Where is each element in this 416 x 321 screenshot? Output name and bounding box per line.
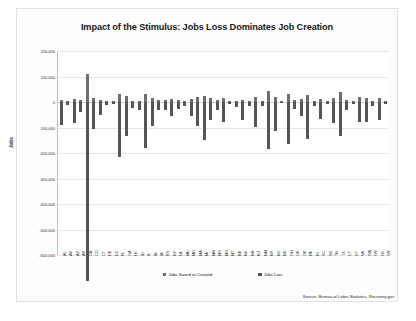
x-tick-label: AK bbox=[68, 251, 73, 256]
bar-jobs-lost bbox=[73, 102, 76, 123]
x-tick-label: MS bbox=[217, 250, 222, 256]
bar-jobs-saved bbox=[118, 94, 121, 102]
x-tick-label: CT bbox=[101, 251, 106, 256]
bar-jobs-lost bbox=[267, 102, 270, 149]
x-tick-label: WV bbox=[373, 250, 378, 256]
x-tick-label: WY bbox=[386, 250, 391, 256]
x-tick-label: HI bbox=[133, 252, 138, 256]
bar-jobs-lost bbox=[66, 102, 69, 105]
bar-jobs-lost bbox=[60, 102, 63, 125]
gridline bbox=[58, 204, 388, 205]
x-tick-label: NE bbox=[237, 251, 242, 256]
x-tick-label: MN bbox=[211, 250, 216, 256]
x-tick-label: NJ bbox=[256, 251, 261, 256]
x-tick-label: IA bbox=[159, 253, 164, 256]
bar-jobs-saved bbox=[235, 101, 238, 102]
bar-jobs-lost bbox=[339, 102, 342, 136]
gridline bbox=[58, 51, 388, 52]
bar-jobs-lost bbox=[378, 102, 381, 120]
x-tick-label: MI bbox=[204, 252, 209, 256]
bar-jobs-lost bbox=[313, 102, 316, 106]
bar-jobs-lost bbox=[235, 102, 238, 107]
x-tick-label: DE bbox=[107, 251, 112, 256]
bar-jobs-saved bbox=[79, 100, 82, 102]
x-tick-label: IL bbox=[146, 253, 151, 256]
bar-jobs-saved bbox=[306, 95, 309, 102]
bar-jobs-saved bbox=[66, 101, 69, 102]
chart-legend: Jobs Saved or CreatedJobs Lost bbox=[57, 272, 388, 277]
bar-jobs-saved bbox=[352, 101, 355, 102]
y-tick-label: -600,000 bbox=[7, 253, 55, 258]
bar-jobs-saved bbox=[358, 97, 361, 102]
bar-jobs-saved bbox=[92, 98, 95, 102]
x-tick-label: WI bbox=[380, 251, 385, 256]
bar-jobs-lost bbox=[300, 102, 303, 116]
bar-jobs-lost bbox=[164, 102, 167, 110]
gridline bbox=[58, 230, 388, 231]
bar-jobs-lost bbox=[326, 102, 329, 104]
bar-jobs-lost bbox=[203, 102, 206, 140]
legend-item[interactable]: Jobs Saved or Created bbox=[163, 272, 212, 277]
x-tick-label: MO bbox=[224, 250, 229, 256]
bar-jobs-lost bbox=[216, 102, 219, 110]
x-tick-label: OH bbox=[289, 250, 294, 256]
bar-jobs-lost bbox=[332, 102, 335, 123]
bar-jobs-saved bbox=[332, 98, 335, 102]
bar-jobs-lost bbox=[306, 102, 309, 139]
x-tick-label: UT bbox=[347, 251, 352, 256]
x-tick-label: KS bbox=[165, 251, 170, 256]
bar-jobs-saved bbox=[254, 97, 257, 102]
x-tick-label: NH bbox=[250, 251, 255, 256]
bar-jobs-saved bbox=[112, 101, 115, 102]
bar-jobs-lost bbox=[190, 102, 193, 116]
bar-jobs-lost bbox=[144, 102, 147, 148]
bar-jobs-saved bbox=[267, 91, 270, 102]
bar-jobs-lost bbox=[196, 102, 199, 126]
bar-jobs-lost bbox=[345, 102, 348, 110]
x-tick-label: TN bbox=[334, 251, 339, 256]
x-tick-label: CA bbox=[88, 251, 93, 256]
bar-jobs-lost bbox=[131, 102, 134, 108]
x-tick-label: SD bbox=[328, 251, 333, 256]
bar-jobs-saved bbox=[293, 100, 296, 102]
x-tick-label: ID bbox=[140, 252, 145, 256]
x-tick-label: LA bbox=[178, 251, 183, 256]
bar-jobs-lost bbox=[125, 102, 128, 136]
x-tick-label: AZ bbox=[75, 251, 80, 256]
bar-jobs-lost bbox=[293, 102, 296, 109]
bar-jobs-saved bbox=[60, 100, 63, 102]
x-tick-label: NC bbox=[276, 251, 281, 256]
x-tick-label: SC bbox=[321, 251, 326, 256]
bar-jobs-saved bbox=[196, 97, 199, 102]
x-tick-label: OK bbox=[295, 251, 300, 256]
x-tick-label: WA bbox=[367, 250, 372, 256]
screenshot-root: Impact of the Stimulus: Jobs Loss Domina… bbox=[0, 0, 416, 321]
gridline bbox=[58, 153, 388, 154]
bar-jobs-saved bbox=[105, 101, 108, 102]
bar-jobs-saved bbox=[319, 99, 322, 102]
x-tick-label: FL bbox=[120, 252, 125, 256]
bar-jobs-saved bbox=[274, 97, 277, 102]
x-tick-label: DC bbox=[114, 251, 119, 256]
legend-swatch-icon bbox=[163, 273, 167, 277]
bar-jobs-saved bbox=[99, 100, 102, 102]
bar-jobs-lost bbox=[254, 102, 257, 127]
bar-jobs-lost bbox=[384, 102, 387, 104]
bar-jobs-lost bbox=[157, 102, 160, 110]
source-note: Source: Bureau of Labor Statistics, Reco… bbox=[303, 294, 394, 299]
bar-jobs-lost bbox=[118, 102, 121, 157]
bar-jobs-saved bbox=[228, 101, 231, 102]
bar-jobs-saved bbox=[151, 98, 154, 102]
bar-jobs-saved bbox=[222, 98, 225, 102]
bar-jobs-saved bbox=[177, 100, 180, 102]
bar-jobs-lost bbox=[248, 102, 251, 106]
bar-jobs-saved bbox=[345, 100, 348, 102]
bar-jobs-saved bbox=[157, 100, 160, 102]
bar-jobs-saved bbox=[138, 101, 141, 102]
x-tick-label: NY bbox=[269, 251, 274, 256]
bar-jobs-lost bbox=[209, 102, 212, 120]
bar-jobs-saved bbox=[365, 98, 368, 102]
legend-item[interactable]: Jobs Lost bbox=[258, 272, 282, 277]
bar-jobs-saved bbox=[131, 101, 134, 102]
y-tick-label: -200,000 bbox=[7, 151, 55, 156]
